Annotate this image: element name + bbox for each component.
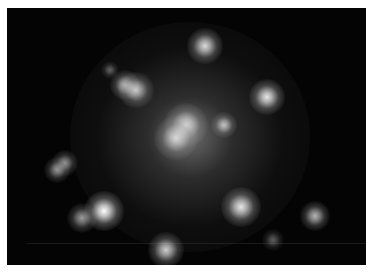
galaxy-source xyxy=(249,79,284,114)
galaxy-source xyxy=(262,229,284,251)
galaxy-source xyxy=(154,116,198,160)
astronomical-image xyxy=(7,8,366,265)
galaxy-source xyxy=(221,187,261,227)
galaxy-source xyxy=(187,28,222,63)
galaxy-source xyxy=(300,201,331,232)
galaxy-source xyxy=(67,203,98,234)
galaxy-source xyxy=(148,232,183,265)
galaxy-source xyxy=(44,157,70,183)
readout-artifact-line xyxy=(27,243,366,244)
galaxy-source xyxy=(118,72,153,107)
